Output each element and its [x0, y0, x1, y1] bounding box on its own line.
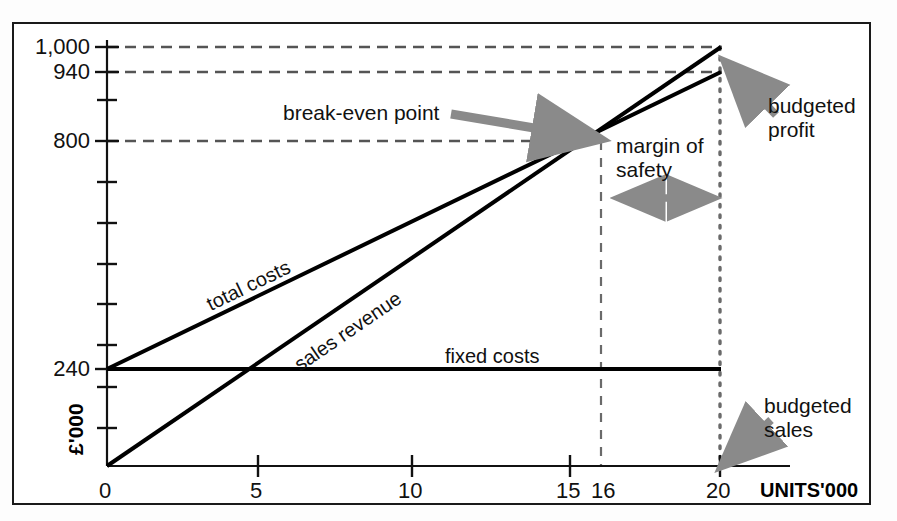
annotation-margin-of-safety: margin of safety: [616, 134, 704, 182]
budgeted-sales-line-2: sales: [764, 418, 813, 441]
series-label-fixed-costs: fixed costs: [445, 345, 539, 368]
margin-of-safety-line-1: margin of: [616, 134, 704, 157]
x-tick-label-20: 20: [706, 478, 730, 504]
margin-of-safety-line-2: safety: [616, 158, 672, 181]
break-even-arrow: [451, 114, 594, 138]
x-tick-label-15: 15: [556, 478, 580, 504]
y-tick-label-800: 800: [18, 128, 90, 154]
y-tick-label-940: 940: [18, 59, 90, 85]
figure-canvas: 1,000 940 800 240 £'000 0 5 10 15 16 20 …: [0, 0, 897, 521]
break-even-chart-graphics: [0, 0, 897, 521]
budgeted-profit-line-2: profit: [768, 118, 815, 141]
y-axis-title: £'000: [64, 403, 88, 455]
x-tick-label-5: 5: [250, 478, 262, 504]
x-tick-label-16: 16: [591, 478, 615, 504]
budgeted-sales-line-1: budgeted: [764, 394, 852, 417]
budgeted-profit-line-1: budgeted: [768, 94, 856, 117]
y-tick-label-1000: 1,000: [18, 34, 90, 60]
y-tick-label-240: 240: [18, 356, 90, 382]
annotation-break-even-point: break-even point: [283, 101, 439, 125]
x-tick-label-0: 0: [99, 478, 111, 504]
x-tick-label-10: 10: [398, 478, 422, 504]
annotation-budgeted-sales: budgeted sales: [764, 394, 852, 442]
annotation-budgeted-profit: budgeted profit: [768, 94, 856, 142]
axes-lines: [107, 40, 790, 466]
x-axis-title: UNITS'000: [760, 479, 858, 502]
